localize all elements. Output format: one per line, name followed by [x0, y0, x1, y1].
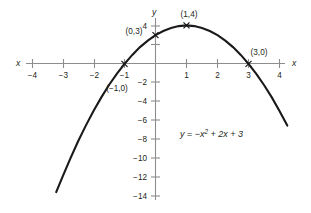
y-tick-label: −10: [133, 154, 147, 163]
point-label-0-3: (0,3): [126, 27, 143, 36]
x-tick-label: −3: [59, 71, 69, 80]
x-axis-label-right: x: [291, 58, 297, 68]
y-axis-label: y: [151, 7, 157, 17]
x-tick-label: 4: [277, 71, 282, 80]
y-tick-label: −14: [133, 192, 147, 201]
equation-rest: + 2x + 3: [208, 129, 243, 139]
parabola-plot: −4 −3 −2 −1 1 2 3 4 4 −2 −4 −6 −8 −10 −1…: [0, 0, 311, 213]
x-tick-label: −4: [28, 71, 38, 80]
x-tick-label: 2: [215, 71, 220, 80]
y-tick-label: −12: [133, 173, 147, 182]
graph-figure: −4 −3 −2 −1 1 2 3 4 4 −2 −4 −6 −8 −10 −1…: [0, 0, 311, 213]
x-tick-label: 1: [184, 71, 189, 80]
x-tick-label: −1: [120, 71, 130, 80]
equation-negx: −x: [195, 129, 205, 139]
equation-annotation: y = −x2 + 2x + 3: [179, 128, 243, 139]
equation-equals: =: [185, 129, 195, 139]
y-tick-label: −6: [138, 116, 148, 125]
point-label-neg1-0: (−1,0): [106, 84, 128, 93]
x-axis-label-left: x: [15, 58, 21, 68]
x-tick-label: 3: [246, 71, 251, 80]
y-tick-label: −2: [138, 78, 148, 87]
annotated-point-labels: (0,3) (1,4) (−1,0) (3,0): [106, 10, 267, 93]
point-label-3-0: (3,0): [251, 48, 268, 57]
y-tick-label: −8: [138, 135, 148, 144]
point-label-1-4: (1,4): [181, 10, 198, 19]
y-tick-label: 4: [142, 22, 147, 31]
x-tick-label: −2: [90, 71, 100, 80]
y-axis-tick-labels: 4 −2 −4 −6 −8 −10 −12 −14: [133, 22, 147, 201]
y-tick-label: −4: [138, 97, 148, 106]
